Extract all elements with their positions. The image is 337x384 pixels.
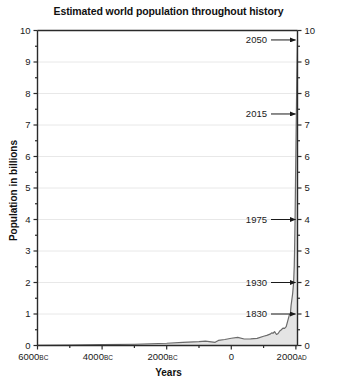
y-tick-label-right: 3: [305, 245, 310, 256]
svg-text:2000BC: 2000BC: [147, 351, 177, 362]
gridlines: [38, 31, 298, 315]
y-tick-label-left: 4: [25, 214, 30, 225]
y-tick-label-left: 8: [25, 88, 30, 99]
x-tick-label: 4000BC: [83, 351, 113, 362]
y-tick-label-right: 0: [305, 340, 310, 351]
y-axis-right-ticks: 012345678910: [298, 25, 316, 351]
y-tick-label-left: 9: [25, 56, 30, 67]
svg-text:4000BC: 4000BC: [83, 351, 113, 362]
y-tick-label-left: 2: [25, 277, 30, 288]
y-tick-label-left: 1: [25, 308, 30, 319]
svg-text:6000BC: 6000BC: [18, 351, 48, 362]
y-tick-label-right: 1: [305, 308, 310, 319]
y-tick-label-right: 10: [305, 25, 316, 36]
y-tick-label-right: 7: [305, 119, 310, 130]
y-tick-label-right: 6: [305, 151, 310, 162]
y-tick-label-left: 6: [25, 151, 30, 162]
annotations-group: 20502015197519301830: [246, 34, 296, 319]
y-tick-label-right: 5: [305, 182, 310, 193]
y-tick-label-right: 4: [305, 214, 310, 225]
y-tick-label-left: 0: [25, 340, 30, 351]
annotation-2015: 2015: [246, 108, 296, 119]
x-tick-label: 6000BC: [18, 351, 48, 362]
annotation-label: 1830: [246, 308, 267, 319]
chart-figure: Estimated world population throughout hi…: [0, 0, 337, 384]
annotation-label: 2015: [246, 108, 267, 119]
x-axis-ticks: 6000BC4000BC2000BC02000AD: [18, 346, 307, 362]
area-fill-path: [38, 40, 298, 346]
y-tick-label-right: 9: [305, 56, 310, 67]
annotation-2050: 2050: [246, 34, 296, 45]
annotation-label: 1975: [246, 214, 267, 225]
y-tick-label-left: 7: [25, 119, 30, 130]
y-tick-label-right: 8: [305, 88, 310, 99]
x-tick-label: 2000BC: [147, 351, 177, 362]
annotation-label: 2050: [246, 34, 267, 45]
x-tick-label: 2000AD: [277, 351, 307, 362]
y-axis-left-ticks: 012345678910: [20, 25, 38, 351]
svg-text:0: 0: [229, 351, 234, 362]
plot-area: 012345678910 012345678910 6000BC4000BC20…: [0, 0, 337, 384]
y-tick-label-left: 10: [20, 25, 31, 36]
annotation-label: 1930: [246, 277, 267, 288]
y-tick-label-left: 5: [25, 182, 30, 193]
y-tick-label-right: 2: [305, 277, 310, 288]
x-tick-label: 0: [229, 351, 234, 362]
y-tick-label-left: 3: [25, 245, 30, 256]
series-line: [38, 40, 298, 345]
population-area-fill: [38, 40, 298, 346]
svg-text:2000AD: 2000AD: [277, 351, 307, 362]
population-line: [38, 40, 298, 345]
